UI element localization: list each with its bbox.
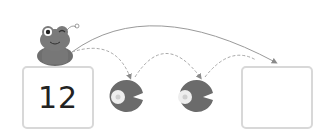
start-number: 12 (38, 80, 78, 115)
flower-icon (111, 90, 125, 104)
hop-arrow-2 (135, 54, 200, 78)
frog-icon (37, 24, 79, 66)
answer-box[interactable] (241, 66, 313, 129)
jump-arrow-total (72, 26, 275, 62)
start-number-box: 12 (22, 66, 94, 129)
flower-icon (178, 90, 192, 104)
